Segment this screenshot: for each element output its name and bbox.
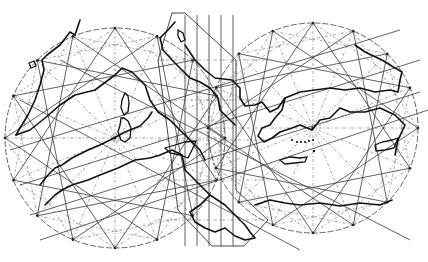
eastern-windrose-point [352, 224, 355, 227]
long-rhumb-line [20, 100, 300, 250]
western-windrose-point [72, 35, 75, 38]
coastline-anatolia-south [312, 108, 405, 155]
eastern-windrose-rhumb-line [216, 54, 387, 88]
coastline-adriatic-east [185, 45, 285, 112]
eastern-windrose-point [386, 52, 389, 55]
island-lagoon-north [178, 30, 185, 42]
eastern-windrose-point [215, 167, 218, 170]
eastern-windrose-point [417, 127, 420, 130]
western-windrose-point [156, 238, 159, 241]
portolan-map [0, 0, 428, 262]
eastern-windrose-point [312, 232, 315, 235]
eastern-windrose-point [312, 22, 315, 25]
western-windrose-point [12, 95, 15, 98]
island-corsica [121, 93, 129, 115]
coastline-spain-south [40, 112, 152, 185]
western-windrose-rhumb-line [5, 36, 157, 138]
eastern-windrose-point [237, 201, 240, 204]
rhumb-line-grid [4, 15, 428, 250]
eastern-windrose-point [272, 224, 275, 227]
eastern-windrose-point [409, 87, 412, 90]
island-small-west [29, 61, 36, 68]
western-windrose-point [114, 27, 117, 30]
coastline-greece [258, 98, 312, 142]
islands [29, 30, 398, 164]
eastern-windrose-point [409, 167, 412, 170]
eastern-windrose-point [272, 30, 275, 33]
long-rhumb-line [30, 92, 420, 215]
western-windrose-point [156, 35, 159, 38]
eastern-windrose-point [237, 52, 240, 55]
aegean-islets [291, 139, 315, 152]
western-windrose-point [72, 238, 75, 241]
western-windrose-rhumb-line [13, 96, 115, 248]
eastern-windrose-rhumb-line [353, 31, 387, 202]
western-windrose-point [4, 137, 7, 140]
eastern-windrose-point [352, 30, 355, 33]
western-windrose-point [12, 179, 15, 182]
western-windrose-point [114, 247, 117, 250]
central-band-outline [158, 13, 268, 246]
western-windrose-point [36, 214, 39, 217]
western-windrose-point [36, 59, 39, 62]
eastern-windrose-rhumb-line [239, 168, 410, 202]
coastline-gulf-of-lion [16, 68, 205, 160]
western-windrose-rhumb-line [115, 28, 217, 180]
